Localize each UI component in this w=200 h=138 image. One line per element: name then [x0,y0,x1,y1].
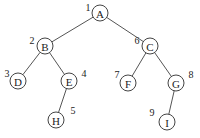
edge-E-H [59,89,67,113]
edge-B-D [23,52,40,74]
node-order-number: 6 [135,35,140,46]
tree-node-F: F7 [115,69,137,92]
tree-nodes: A1B2C6D3E4F7G8H5I9 [5,2,194,131]
node-order-number: 3 [5,68,10,79]
tree-node-A: A1 [86,2,109,22]
node-order-number: 7 [115,69,120,80]
node-order-number: 5 [71,105,76,116]
node-label: C [146,41,153,53]
tree-node-C: C6 [135,35,159,55]
tree-node-B: B2 [30,35,54,55]
edge-C-G [155,53,172,77]
edge-B-E [50,53,65,75]
node-order-number: 8 [189,69,194,80]
binary-tree-diagram: A1B2C6D3E4F7G8H5I9 [0,0,200,138]
edge-A-B [52,17,93,42]
tree-node-G: G8 [168,69,194,92]
tree-node-H: H5 [48,105,76,129]
tree-node-E: E4 [61,68,87,90]
node-label: G [172,78,180,90]
node-order-number: 4 [82,68,87,79]
node-label: A [96,8,104,20]
tree-node-D: D3 [5,68,27,90]
tree-edges [23,17,174,114]
tree-node-I: I9 [150,107,176,131]
edge-G-I [169,91,174,114]
node-label: E [66,76,73,88]
node-label: I [165,117,169,129]
node-order-number: 2 [30,35,35,46]
edge-C-F [132,53,146,76]
node-label: H [52,115,60,127]
node-label: D [14,76,22,88]
node-order-number: 1 [86,2,91,13]
node-label: B [41,41,48,53]
node-order-number: 9 [150,107,155,118]
node-label: F [125,78,131,90]
